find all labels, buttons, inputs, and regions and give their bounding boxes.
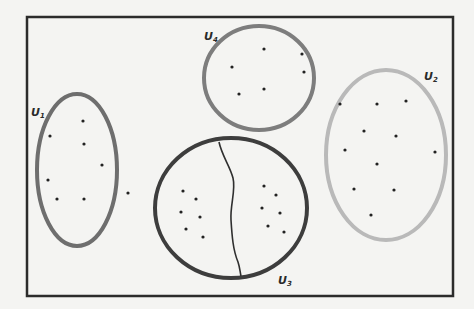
element-point (375, 102, 378, 105)
element-point (194, 197, 197, 200)
element-point (201, 235, 204, 238)
element-point (266, 224, 269, 227)
element-point (338, 102, 341, 105)
background (0, 0, 474, 309)
element-point (82, 142, 85, 145)
element-point (237, 92, 240, 95)
element-point (433, 150, 436, 153)
element-point (198, 215, 201, 218)
element-point (362, 129, 365, 132)
element-point (181, 189, 184, 192)
element-point (352, 187, 355, 190)
element-point (375, 162, 378, 165)
element-point (82, 197, 85, 200)
element-point (278, 211, 281, 214)
element-point (394, 134, 397, 137)
element-point (369, 213, 372, 216)
element-point (48, 134, 51, 137)
element-point (343, 148, 346, 151)
element-point (55, 197, 58, 200)
element-point (262, 87, 265, 90)
element-point (262, 47, 265, 50)
element-point (260, 206, 263, 209)
set-diagram: U1U2U4U3 (0, 0, 474, 309)
element-point (302, 70, 305, 73)
element-point (81, 119, 84, 122)
element-point (230, 65, 233, 68)
element-point (46, 178, 49, 181)
element-point (262, 184, 265, 187)
element-point (282, 230, 285, 233)
element-point (300, 52, 303, 55)
element-point (404, 99, 407, 102)
element-point (184, 227, 187, 230)
element-point (392, 188, 395, 191)
element-point (179, 210, 182, 213)
element-point (126, 191, 129, 194)
element-point (274, 193, 277, 196)
element-point (100, 163, 103, 166)
